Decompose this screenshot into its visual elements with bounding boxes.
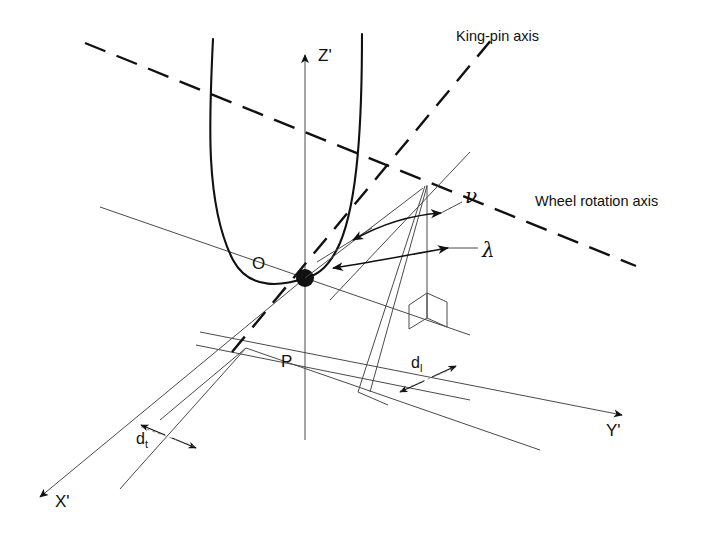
wheel-rotation-axis-line	[85, 43, 636, 266]
x-axis-label: X'	[55, 493, 70, 510]
dimension-dl-label: dl	[411, 355, 422, 374]
dl-subscript: l	[420, 362, 422, 374]
ground-line-o-x	[100, 207, 305, 278]
y-axis-label: Y'	[606, 422, 621, 439]
ground-edge-lower-left	[120, 472, 135, 489]
dt-base: d	[136, 430, 145, 447]
wheel-curve-left	[210, 39, 305, 284]
x-axis-line	[40, 278, 305, 497]
dt-dash-connector	[141, 427, 196, 447]
angle-arc-lambda	[333, 248, 448, 268]
dimension-dl	[358, 366, 456, 405]
angle-lambda-label: λ	[482, 240, 495, 260]
angle-arcs	[333, 213, 448, 268]
angle-nu-label: ν	[465, 186, 477, 206]
ground-line-through-p	[196, 345, 470, 400]
wheel-rotation-axis-label: Wheel rotation axis	[535, 194, 658, 209]
angle-leader-lines	[441, 202, 478, 248]
aux-line-through-convergence	[330, 152, 470, 300]
point-p-label: P	[281, 353, 292, 370]
ground-line-p-parallel	[160, 348, 246, 420]
king-pin-axis-label: King-pin axis	[456, 29, 539, 44]
wheel-outline	[210, 34, 362, 284]
point-o-label: O	[252, 255, 265, 272]
ground-line-lower-parallel	[135, 348, 246, 472]
dimension-dt-label: dt	[136, 431, 148, 450]
king-pin-axis-line	[232, 33, 497, 352]
dl-ext-left	[358, 392, 388, 405]
y-axis-line	[160, 417, 624, 420]
dt-subscript: t	[145, 438, 148, 450]
diagram-svg	[0, 0, 712, 537]
nu-leader	[441, 202, 462, 213]
dl-base: d	[411, 354, 420, 371]
z-axis-label: Z'	[318, 47, 332, 64]
angle-arc-nu	[353, 213, 441, 240]
diagram-canvas: King-pin axis Wheel rotation axis Z' X' …	[0, 0, 712, 537]
ground-plane-lines	[40, 207, 624, 497]
dimension-dt	[141, 425, 196, 448]
right-angle-marker	[409, 293, 447, 329]
